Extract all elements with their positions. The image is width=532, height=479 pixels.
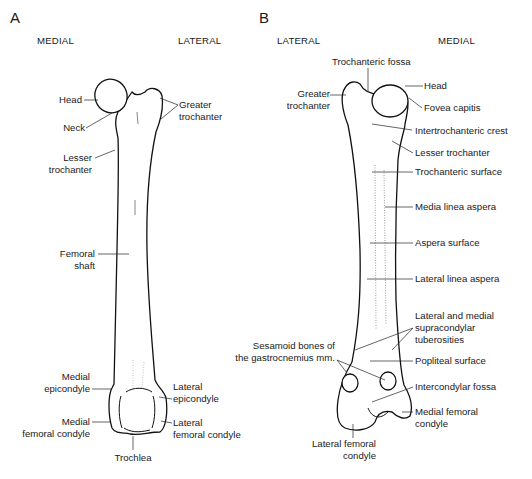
label-greater-trochanter-a-1: Greater xyxy=(179,99,212,111)
femur-anterior-view xyxy=(90,75,167,435)
sesamoid-left xyxy=(342,374,358,392)
side-label-lateral-b: LATERAL xyxy=(277,35,320,46)
label-sesamoid-2: the gastrocnemius mm. xyxy=(235,352,335,364)
label-femoral-shaft-1: Femoral xyxy=(60,248,95,260)
label-femoral-shaft-2: shaft xyxy=(74,260,95,272)
label-neck-a: Neck xyxy=(63,122,85,134)
label-intercondylar-fossa: Intercondylar fossa xyxy=(415,381,496,393)
label-lateral-linea-aspera: Lateral linea aspera xyxy=(415,273,499,285)
label-aspera-surface: Aspera surface xyxy=(415,237,480,249)
label-supracondylar-2: supracondylar xyxy=(415,322,475,334)
side-label-medial-a: MEDIAL xyxy=(37,35,74,46)
label-supracondylar-3: tuberosities xyxy=(415,334,464,346)
label-supracondylar-1: Lateral and medial xyxy=(415,310,494,322)
label-lateral-femoral-condyle-b-2: condyle xyxy=(343,450,376,462)
label-lateral-femoral-condyle-a-2: femoral condyle xyxy=(173,429,241,441)
label-lateral-epicondyle-2: epicondyle xyxy=(173,393,219,405)
label-trochanteric-surface: Trochanteric surface xyxy=(415,166,502,178)
label-media-linea-aspera: Media linea aspera xyxy=(415,201,496,213)
label-trochanteric-fossa: Trochanteric fossa xyxy=(332,56,411,68)
label-greater-trochanter-a-2: trochanter xyxy=(179,111,222,123)
label-lateral-femoral-condyle-a-1: Lateral xyxy=(173,417,202,429)
label-head-a: Head xyxy=(59,94,82,106)
label-medial-femoral-condyle-a-2: femoral condyle xyxy=(22,428,90,440)
label-greater-trochanter-b-1: Greater xyxy=(297,88,330,100)
label-lesser-trochanter-a-1: Lesser xyxy=(63,152,92,164)
label-lateral-epicondyle-1: Lateral xyxy=(173,381,202,393)
label-trochlea: Trochlea xyxy=(113,452,153,464)
side-label-medial-b: MEDIAL xyxy=(438,35,475,46)
label-medial-femoral-condyle-b-1: Medial femoral xyxy=(415,406,478,418)
panel-letter-b: B xyxy=(259,9,269,26)
label-lesser-trochanter-b: Lesser trochanter xyxy=(415,147,490,159)
label-popliteal-surface: Popliteal surface xyxy=(415,355,486,367)
label-medial-femoral-condyle-a-1: Medial xyxy=(62,416,90,428)
label-fovea-capitis: Fovea capitis xyxy=(424,102,481,114)
label-greater-trochanter-b-2: trochanter xyxy=(287,100,330,112)
label-lateral-femoral-condyle-b-1: Lateral femoral xyxy=(312,438,376,450)
label-head-b: Head xyxy=(424,80,447,92)
label-lesser-trochanter-a-2: trochanter xyxy=(49,164,92,176)
label-medial-epicondyle-1: Medial xyxy=(62,371,90,383)
sesamoid-right xyxy=(380,372,396,390)
panel-letter-a: A xyxy=(10,9,20,26)
label-sesamoid-1: Sesamoid bones of xyxy=(253,340,335,352)
femur-posterior-view xyxy=(337,82,411,430)
label-medial-femoral-condyle-b-2: condyle xyxy=(415,418,448,430)
label-medial-epicondyle-2: epicondyle xyxy=(44,383,90,395)
label-intertrochanteric-crest: Intertrochanteric crest xyxy=(415,125,508,137)
side-label-lateral-a: LATERAL xyxy=(178,35,221,46)
